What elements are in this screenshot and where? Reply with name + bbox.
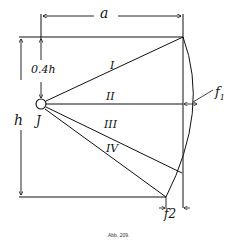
label-ray-IV: IV bbox=[106, 143, 118, 154]
label-ray-III: III bbox=[104, 119, 117, 130]
label-ray-II: II bbox=[106, 91, 115, 102]
label-f2: f2 bbox=[164, 208, 176, 220]
label-h: h bbox=[14, 113, 23, 127]
figure-caption: Abb. 209. bbox=[108, 232, 129, 238]
diagram-figure: a 0.4h h J I II III IV f1 f2 Abb. 209. bbox=[0, 0, 240, 243]
pivot-circle bbox=[36, 99, 46, 109]
label-0-4h: 0.4h bbox=[31, 64, 56, 75]
label-pivot-J: J bbox=[36, 115, 41, 127]
label-f1: f1 bbox=[215, 85, 225, 102]
ray-III bbox=[46, 107, 182, 173]
dimension-a bbox=[41, 14, 183, 40]
label-f1-subscript: 1 bbox=[220, 93, 225, 102]
label-a: a bbox=[100, 6, 108, 20]
deflection-arc bbox=[166, 37, 193, 197]
f1-dimension bbox=[184, 90, 213, 104]
label-ray-I: I bbox=[110, 60, 114, 71]
